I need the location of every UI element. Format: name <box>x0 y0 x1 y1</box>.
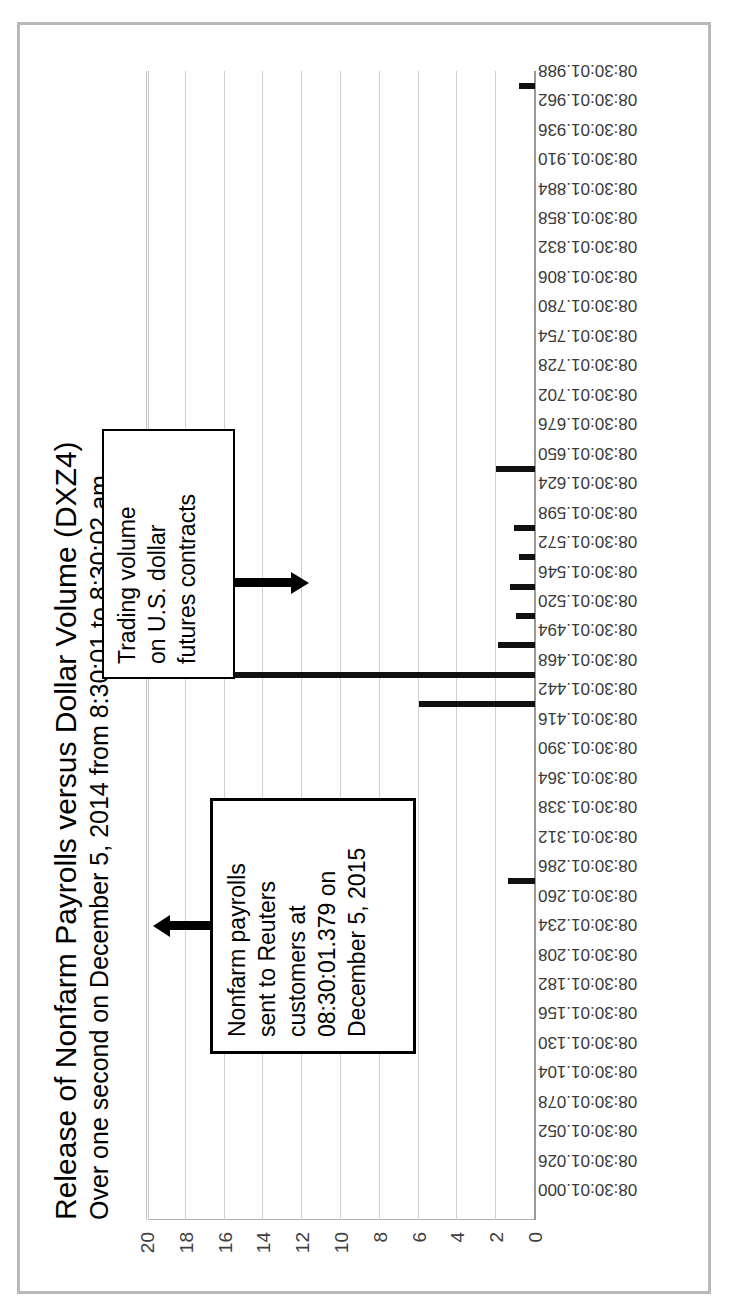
time-axis-tick-label: 08:30:01.182 <box>538 973 637 993</box>
time-axis-tick-label: 08:30:01.078 <box>538 1091 637 1111</box>
value-axis-tick-label: 20 <box>137 1232 159 1253</box>
annotation-payrolls-arrow-icon <box>153 915 213 937</box>
time-axis-tick-label: 08:30:01.494 <box>538 620 637 640</box>
time-axis-tick-label: 08:30:01.312 <box>538 826 637 846</box>
time-axis-tick-label: 08:30:01.208 <box>538 944 637 964</box>
time-axis-tick-label: 08:30:01.416 <box>538 708 637 728</box>
chart-title: Release of Nonfarm Payrolls versus Dolla… <box>48 100 83 1220</box>
value-axis-tick-label: 2 <box>486 1232 508 1243</box>
value-axis-tick-label: 18 <box>176 1232 198 1253</box>
annotation-line: futures contracts <box>173 444 203 664</box>
bar <box>496 466 535 472</box>
time-axis-tick-label: 08:30:01.858 <box>538 207 637 227</box>
time-axis-tick-label: 08:30:01.468 <box>538 649 637 669</box>
time-axis-tick-label: 08:30:01.832 <box>538 237 637 257</box>
gridline <box>456 71 457 1220</box>
value-axis-tick-label: 10 <box>331 1232 353 1253</box>
value-axis-tick-label: 12 <box>292 1232 314 1253</box>
value-axis-tick-label: 16 <box>215 1232 237 1253</box>
time-axis-tick-label: 08:30:01.676 <box>538 413 637 433</box>
bar <box>419 701 535 707</box>
time-axis-tick-label: 08:30:01.884 <box>538 178 637 198</box>
value-axis-tick-label: 14 <box>253 1232 275 1253</box>
scanned-page: Release of Nonfarm Payrolls versus Dolla… <box>0 0 731 1313</box>
gridline <box>418 71 419 1220</box>
arrow-head-icon <box>291 572 309 594</box>
time-axis-tick-label: 08:30:01.806 <box>538 266 637 286</box>
value-axis-tick-label: 0 <box>525 1232 547 1243</box>
time-axis: 08:30:01.00008:30:01.02608:30:01.05208:3… <box>538 71 688 1220</box>
time-axis-tick-label: 08:30:01.234 <box>538 914 637 934</box>
arrow-shaft <box>233 578 293 587</box>
time-axis-tick-label: 08:30:01.520 <box>538 590 637 610</box>
time-axis-tick-label: 08:30:01.156 <box>538 1003 637 1023</box>
time-axis-tick-label: 08:30:01.364 <box>538 767 637 787</box>
time-axis-tick-label: 08:30:01.650 <box>538 443 637 463</box>
bar <box>508 878 535 884</box>
annotation-line: December 5, 2015 <box>343 815 373 1037</box>
time-axis-tick-label: 08:30:01.104 <box>538 1061 637 1081</box>
time-axis-tick-label: 08:30:01.546 <box>538 561 637 581</box>
time-axis-tick-label: 08:30:01.936 <box>538 119 637 139</box>
annotation-trading-volume: Trading volumeon U.S. dollarfutures cont… <box>102 429 235 679</box>
time-axis-tick-label: 08:30:01.702 <box>538 384 637 404</box>
time-axis-tick-label: 08:30:01.000 <box>538 1179 637 1199</box>
plot-left-edge <box>149 1219 535 1220</box>
time-axis-tick-label: 08:30:01.286 <box>538 855 637 875</box>
time-axis-tick-label: 08:30:01.572 <box>538 531 637 551</box>
value-axis-tick-label: 8 <box>370 1232 392 1243</box>
time-axis-tick-label: 08:30:01.338 <box>538 796 637 816</box>
annotation-line: on U.S. dollar <box>143 444 173 664</box>
time-axis-tick-label: 08:30:01.754 <box>538 325 637 345</box>
bar <box>519 83 535 89</box>
time-axis-tick-label: 08:30:01.962 <box>538 89 637 109</box>
arrow-shaft <box>167 921 213 930</box>
rotated-chart-stage: Release of Nonfarm Payrolls versus Dolla… <box>30 34 698 1282</box>
value-axis-tick-label: 6 <box>409 1232 431 1243</box>
annotation-line: Nonfarm payrolls <box>223 815 253 1037</box>
time-axis-tick-label: 08:30:01.598 <box>538 502 637 522</box>
bar <box>514 525 535 531</box>
value-axis: 02468101214161820 <box>148 1224 536 1282</box>
annotation-line: sent to Reuters <box>253 815 283 1037</box>
time-axis-tick-label: 08:30:01.624 <box>538 472 637 492</box>
gridline <box>495 71 496 1220</box>
time-axis-tick-label: 08:30:01.728 <box>538 354 637 374</box>
annotation-volume-arrow-icon <box>233 572 309 594</box>
time-axis-tick-label: 08:30:01.130 <box>538 1032 637 1052</box>
time-axis-tick-label: 08:30:01.390 <box>538 737 637 757</box>
time-axis-tick-label: 08:30:01.026 <box>538 1150 637 1170</box>
time-axis-tick-label: 08:30:01.052 <box>538 1120 637 1140</box>
bar <box>510 584 535 590</box>
value-axis-tick-label: 4 <box>447 1232 469 1243</box>
annotation-payrolls-release: Nonfarm payrollssent to Reuterscustomers… <box>210 798 416 1054</box>
time-axis-tick-label: 08:30:01.442 <box>538 678 637 698</box>
bar <box>519 554 535 560</box>
time-axis-tick-label: 08:30:01.910 <box>538 148 637 168</box>
annotation-line: 08:30:01.379 on <box>313 815 343 1037</box>
bar <box>498 643 535 649</box>
page-border: Release of Nonfarm Payrolls versus Dolla… <box>17 22 711 1294</box>
bar <box>516 613 535 619</box>
annotation-line: customers at <box>283 815 313 1037</box>
time-axis-tick-label: 08:30:01.260 <box>538 885 637 905</box>
time-axis-tick-label: 08:30:01.988 <box>538 60 637 80</box>
annotation-line: Trading volume <box>113 444 143 664</box>
time-axis-tick-label: 08:30:01.780 <box>538 295 637 315</box>
